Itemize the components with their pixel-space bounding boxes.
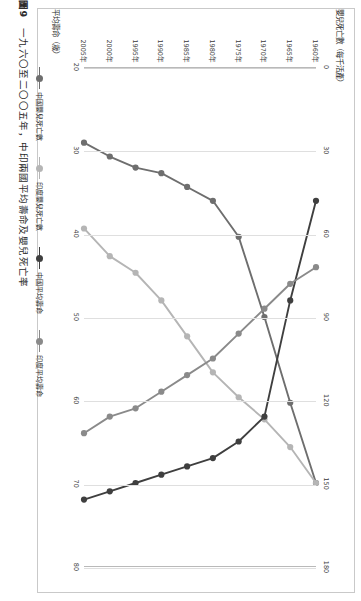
legend-label: 中國嬰兒死亡數 (35, 92, 45, 141)
series-marker (261, 314, 267, 320)
series-marker (158, 472, 164, 478)
top-axis-tick: 30 (322, 146, 330, 154)
top-axis-tick: 150 (322, 477, 330, 489)
legend-item[interactable]: 中國平均壽命 (35, 247, 45, 314)
series-marker (313, 264, 319, 270)
series-marker (313, 198, 319, 204)
gridline (84, 235, 316, 236)
series-marker (158, 170, 164, 176)
top-axis-tick: 60 (322, 230, 330, 238)
series-marker (236, 331, 242, 337)
figure-caption: 圖9 一九六〇至二〇〇五年，中印兩國平均壽命及嬰兒死亡率 (5, 0, 31, 601)
figure-caption-text: 一九六〇至二〇〇五年，中印兩國平均壽命及嬰兒死亡率 (18, 28, 29, 288)
series-marker (261, 306, 267, 312)
chart-frame: 嬰兒死亡數（每千活產） 平均壽命（歲） 03060901201501802030… (37, 8, 355, 593)
gridline (84, 318, 316, 319)
series-line (84, 201, 316, 500)
series-marker (81, 430, 87, 436)
legend-label: 印度平均壽命 (35, 355, 45, 397)
series-marker (81, 497, 87, 503)
bottom-axis-tick: 60 (72, 396, 80, 404)
year-axis-tick: 1970年 (259, 9, 269, 68)
year-axis-tick: 1990年 (156, 9, 166, 68)
legend-swatch (36, 157, 45, 179)
year-axis-tick: 2005年 (79, 9, 89, 68)
chart-legend: 中國嬰兒死亡數印度嬰兒死亡數中國平均壽命印度平均壽命 (32, 67, 48, 567)
series-marker (210, 198, 216, 204)
year-axis-tick: 1965年 (285, 9, 295, 68)
year-axis-tick: 1980年 (208, 9, 218, 68)
top-axis-tick: 120 (322, 394, 330, 406)
top-axis-tick: 0 (322, 65, 330, 69)
year-axis-tick: 1960年 (311, 9, 321, 68)
series-marker (287, 444, 293, 450)
series-marker (184, 333, 190, 339)
series-marker (107, 153, 113, 159)
gridline (84, 401, 316, 402)
series-marker (184, 184, 190, 190)
series-marker (210, 455, 216, 461)
series-marker (158, 389, 164, 395)
series-marker (287, 297, 293, 303)
legend-swatch (36, 67, 45, 89)
top-axis-title: 嬰兒死亡數（每千活產） (335, 9, 346, 86)
year-axis-tick: 2000年 (105, 9, 115, 68)
plot-area (84, 67, 316, 567)
year-axis-tick: 1975年 (234, 9, 244, 68)
series-marker (132, 270, 138, 276)
series-marker (158, 297, 164, 303)
series-marker (210, 369, 216, 375)
bottom-axis-tick: 80 (72, 563, 80, 571)
series-marker (81, 225, 87, 231)
series-marker (261, 414, 267, 420)
legend-item[interactable]: 印度平均壽命 (35, 330, 45, 397)
series-line (84, 143, 316, 483)
series-marker (132, 165, 138, 171)
gridline (84, 568, 316, 569)
series-marker (184, 463, 190, 469)
gridline (84, 151, 316, 152)
series-marker (184, 372, 190, 378)
gridline (84, 485, 316, 486)
series-marker (107, 253, 113, 259)
legend-label: 中國平均壽命 (35, 272, 45, 314)
bottom-axis-tick: 40 (72, 230, 80, 238)
year-axis-tick: 1985年 (182, 9, 192, 68)
series-marker (236, 394, 242, 400)
series-marker (132, 405, 138, 411)
bottom-axis-tick: 70 (72, 480, 80, 488)
legend-label: 印度嬰兒死亡數 (35, 182, 45, 231)
series-marker (107, 414, 113, 420)
legend-item[interactable]: 印度嬰兒死亡數 (35, 157, 45, 231)
year-axis-tick: 1995年 (131, 9, 141, 68)
legend-item[interactable]: 中國嬰兒死亡數 (35, 67, 45, 141)
bottom-axis-title: 平均壽命（歲） (51, 9, 62, 58)
series-marker (81, 140, 87, 146)
bottom-axis-tick: 30 (72, 146, 80, 154)
series-line (84, 267, 316, 433)
gridline (84, 68, 316, 69)
series-marker (107, 488, 113, 494)
series-layer (84, 68, 316, 566)
legend-swatch (36, 330, 45, 352)
series-marker (210, 355, 216, 361)
top-axis-tick: 180 (322, 561, 330, 573)
series-line (84, 228, 316, 483)
figure-rotated-wrapper: 嬰兒死亡數（每千活產） 平均壽命（歲） 03060901201501802030… (0, 0, 361, 601)
top-axis-tick: 90 (322, 313, 330, 321)
series-marker (236, 438, 242, 444)
figure-number: 圖9 (18, 0, 29, 17)
figure-stage: 嬰兒死亡數（每千活產） 平均壽命（歲） 03060901201501802030… (0, 0, 361, 601)
series-marker (287, 281, 293, 287)
legend-swatch (36, 247, 45, 269)
bottom-axis-tick: 50 (72, 313, 80, 321)
